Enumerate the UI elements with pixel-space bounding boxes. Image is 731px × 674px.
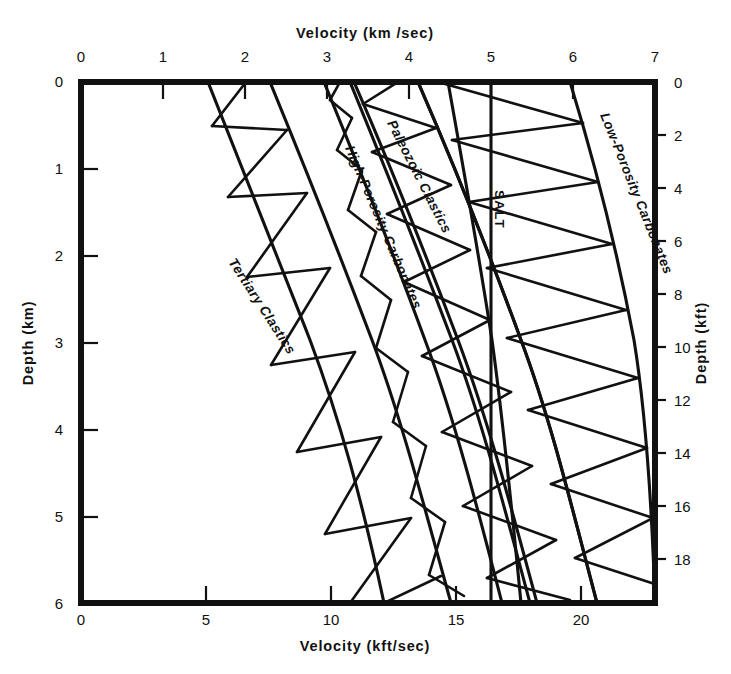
label-salt: SALT xyxy=(492,190,507,229)
top-tick-6: 6 xyxy=(569,48,577,65)
right-tick-18: 18 xyxy=(674,551,691,568)
left-tick-1: 1 xyxy=(55,160,63,177)
top-tick-7: 7 xyxy=(651,48,659,65)
left-tick-4: 4 xyxy=(55,421,63,438)
bottom-tick-10: 10 xyxy=(323,611,340,628)
right-tick-12: 12 xyxy=(674,392,691,409)
bottom-tick-15: 15 xyxy=(448,611,465,628)
right-tick-2: 2 xyxy=(674,127,682,144)
bottom-tick-20: 20 xyxy=(573,611,590,628)
top-tick-1: 1 xyxy=(159,48,167,65)
velocity-depth-figure: Velocity (km /sec) Velocity (kft/sec) De… xyxy=(0,0,731,674)
left-tick-0: 0 xyxy=(55,73,63,90)
top-tick-0: 0 xyxy=(77,48,85,65)
left-tick-labels: 0 1 2 3 4 5 6 xyxy=(55,73,63,612)
left-tick-marks xyxy=(84,169,98,517)
left-tick-2: 2 xyxy=(55,247,63,264)
top-axis-title: Velocity (km /sec) xyxy=(296,25,434,41)
left-tick-3: 3 xyxy=(55,334,63,351)
bottom-tick-0: 0 xyxy=(77,611,85,628)
right-tick-10: 10 xyxy=(674,339,691,356)
top-tick-labels: 0 1 2 3 4 5 6 7 xyxy=(77,48,659,65)
top-tick-2: 2 xyxy=(241,48,249,65)
bottom-tick-labels: 0 5 10 15 20 xyxy=(77,611,590,628)
chart-canvas: Velocity (km /sec) Velocity (kft/sec) De… xyxy=(0,0,731,674)
right-axis-title: Depth (kft) xyxy=(693,302,709,384)
left-axis-title: Depth (km) xyxy=(20,301,36,386)
bottom-axis-title: Velocity (kft/sec) xyxy=(300,638,431,654)
right-tick-16: 16 xyxy=(674,498,691,515)
top-tick-marks xyxy=(163,85,573,99)
right-tick-8: 8 xyxy=(674,286,682,303)
plot-area xyxy=(208,82,655,603)
top-tick-5: 5 xyxy=(487,48,495,65)
right-tick-4: 4 xyxy=(674,180,682,197)
right-tick-0: 0 xyxy=(674,74,682,91)
left-tick-5: 5 xyxy=(55,508,63,525)
right-tick-labels: 0 2 4 6 8 10 12 14 16 18 xyxy=(674,74,691,568)
left-tick-6: 6 xyxy=(55,595,63,612)
top-tick-3: 3 xyxy=(323,48,331,65)
label-tertiary-clastics: Tertiary Clastics xyxy=(225,255,298,357)
right-tick-6: 6 xyxy=(674,233,682,250)
bottom-tick-5: 5 xyxy=(202,611,210,628)
top-tick-4: 4 xyxy=(405,48,413,65)
right-tick-14: 14 xyxy=(674,445,691,462)
